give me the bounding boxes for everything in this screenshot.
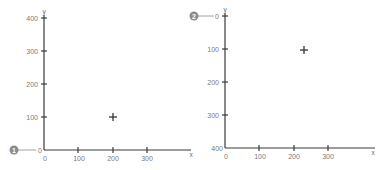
x-axis-label: x xyxy=(371,149,375,156)
x-axis-label: x xyxy=(189,151,193,158)
y-axis-label: y xyxy=(223,6,227,14)
x-tick-label: 300 xyxy=(322,153,334,160)
plus-marker-point xyxy=(109,113,117,121)
plus-marker-point xyxy=(300,46,308,54)
badge-number: 2 xyxy=(192,13,196,20)
x-tick-label: 300 xyxy=(141,155,153,162)
y-tick-label: 300 xyxy=(207,112,219,119)
x-tick-label: 0 xyxy=(43,155,47,162)
y-tick-label: 100 xyxy=(207,46,219,53)
badge-number: 1 xyxy=(12,147,16,154)
x-tick-label: 200 xyxy=(288,153,300,160)
chart-right: 0 100 200 300 400 0 100 200 300 y x 2 xyxy=(190,6,376,160)
y-tick-label: 200 xyxy=(207,79,219,86)
y-axis-label: y xyxy=(42,8,46,16)
y-tick-label: 400 xyxy=(26,15,38,22)
x-tick-label: 100 xyxy=(254,153,266,160)
y-tick-label: 100 xyxy=(26,114,38,121)
coordinate-diagrams: 400 300 200 100 0 0 100 200 300 y x 1 xyxy=(0,0,387,170)
x-tick-label: 0 xyxy=(224,153,228,160)
y-tick-label: 300 xyxy=(26,48,38,55)
y-tick-label: 0 xyxy=(215,13,219,20)
y-tick-label: 200 xyxy=(26,81,38,88)
x-tick-label: 200 xyxy=(107,155,119,162)
chart-left: 400 300 200 100 0 0 100 200 300 y x 1 xyxy=(10,8,194,162)
x-tick-label: 100 xyxy=(73,155,85,162)
y-tick-label: 0 xyxy=(38,147,42,154)
y-tick-label: 400 xyxy=(211,145,223,152)
